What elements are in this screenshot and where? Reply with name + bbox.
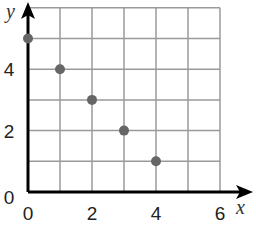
x-tick-label: 2 (87, 203, 98, 224)
scatter-chart: 0246024 x y (0, 0, 256, 226)
data-point (151, 156, 161, 166)
data-point (55, 64, 65, 74)
x-tick-label: 0 (23, 203, 34, 224)
data-point (87, 95, 97, 105)
y-tick-label: 4 (4, 59, 15, 80)
x-tick-label: 4 (151, 203, 162, 224)
data-point (23, 34, 33, 44)
y-tick-label: 0 (4, 187, 15, 208)
grid-lines (28, 8, 220, 192)
x-axis-label: x (235, 196, 245, 218)
tick-labels: 0246024 (4, 59, 226, 224)
y-axis-label: y (4, 0, 15, 23)
data-point (119, 126, 129, 136)
x-tick-label: 6 (215, 203, 226, 224)
y-tick-label: 2 (4, 121, 15, 142)
